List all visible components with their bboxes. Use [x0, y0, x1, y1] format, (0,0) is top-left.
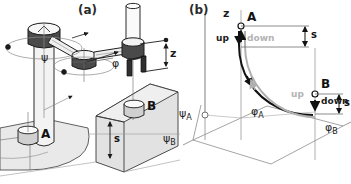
panel-a-tag: (a): [78, 4, 97, 16]
panel-a-drawing: [0, 0, 180, 184]
point-a-label: A: [247, 11, 256, 23]
panel-a: (a) ψ φ z s A B: [0, 0, 180, 184]
origin-marker: [202, 112, 208, 118]
phi-b-axis-label: φB: [325, 122, 338, 136]
psi-b-axis-label: ψB: [163, 133, 176, 147]
up-label-a: up: [216, 34, 229, 43]
phi-a-axis-label: φA: [251, 106, 264, 120]
s-label-b: s: [344, 98, 350, 108]
phi-label: φ: [112, 58, 119, 69]
phi-a-subscript: A: [258, 111, 263, 120]
elbow-joint: [72, 48, 96, 82]
s-label-a: s: [311, 30, 317, 40]
panel-b-drawing: [175, 0, 351, 184]
figure-root: (a) ψ φ z s A B: [0, 0, 351, 184]
s-dimension-label: s: [114, 134, 120, 144]
psi-a-subscript: A: [186, 113, 191, 122]
object-b: [124, 100, 144, 118]
panel-b: (b) z A B up down up down s s ψA ψB φA φ…: [175, 0, 351, 184]
psi-a-axis-label: ψA: [179, 108, 192, 122]
up-label-b: up: [291, 90, 304, 99]
psi-label: ψ: [41, 52, 48, 63]
object-b-label: B: [147, 100, 156, 112]
object-a-label: A: [41, 128, 50, 140]
panel-b-tag: (b): [189, 4, 209, 16]
phi-b-subscript: B: [332, 127, 338, 136]
point-b-label: B: [321, 78, 330, 90]
z-axis-label: z: [223, 8, 229, 19]
down-label-a: down: [247, 34, 274, 43]
psi-b-subscript: B: [170, 138, 176, 147]
box-support: [96, 84, 178, 172]
